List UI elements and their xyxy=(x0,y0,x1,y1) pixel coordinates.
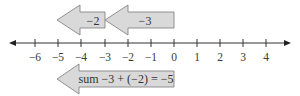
tick-labels: −6 −5 −4 −3 −2 −1 0 1 2 3 4 xyxy=(29,51,269,63)
arrow-minus-2: −2 xyxy=(57,5,105,35)
tick-label: 0 xyxy=(171,51,177,63)
arrow-minus-3: −3 xyxy=(105,5,174,35)
number-line-axis xyxy=(9,39,291,47)
tick-label: −5 xyxy=(52,51,64,63)
right-arrowhead-icon xyxy=(284,40,291,46)
tick-label: −2 xyxy=(122,51,134,63)
tick-label: −6 xyxy=(29,51,41,63)
tick-label: −4 xyxy=(75,51,87,63)
left-arrowhead-icon xyxy=(9,40,16,46)
arrow-label-minus-3: −3 xyxy=(139,14,152,28)
arrow-label-sum: sum −3 + (−2) = −5 xyxy=(79,72,174,86)
number-line-diagram: −2 −3 −6 −5 −4 −3 −2 −1 0 1 xyxy=(0,0,300,96)
arrow-label-minus-2: −2 xyxy=(87,14,100,28)
tick-label: 2 xyxy=(217,51,223,63)
tick-label: 3 xyxy=(240,51,246,63)
tick-label: 4 xyxy=(263,51,269,63)
tick-label: −3 xyxy=(99,51,111,63)
arrow-sum: sum −3 + (−2) = −5 xyxy=(57,64,174,94)
tick-label: 1 xyxy=(194,51,200,63)
tick-label: −1 xyxy=(145,51,157,63)
